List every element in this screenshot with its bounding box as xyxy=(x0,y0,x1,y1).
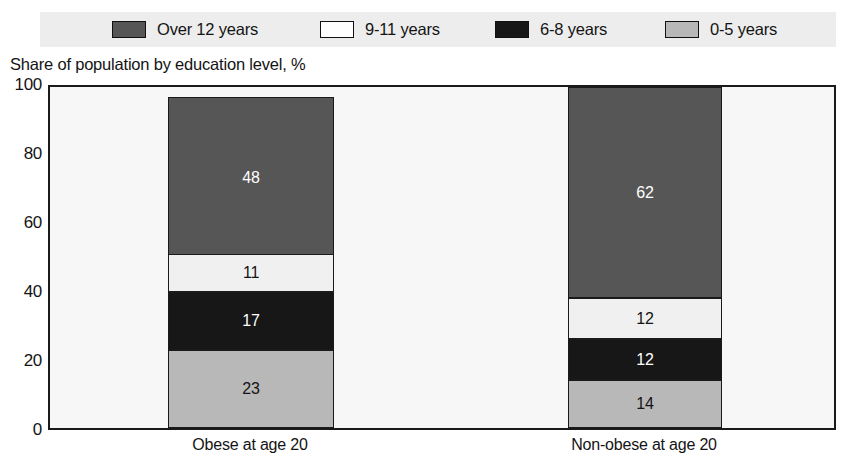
legend-swatch-0-5-years xyxy=(665,21,699,38)
y-tick-label-0: 0 xyxy=(2,420,42,440)
legend-swatch-6-8-years xyxy=(495,21,529,38)
y-axis: 100 80 60 40 20 0 xyxy=(0,85,42,430)
bar-segment-over-12-years[interactable]: 62 xyxy=(568,87,722,298)
plot-inner: 48 11 17 23 62 12 12 14 xyxy=(50,87,834,428)
bar-segment-value: 12 xyxy=(636,311,653,327)
bar-segment-value: 14 xyxy=(636,396,653,412)
legend-label-9-11-years: 9-11 years xyxy=(365,20,440,39)
legend-label-over-12-years: Over 12 years xyxy=(157,20,258,39)
legend-label-6-8-years: 6-8 years xyxy=(540,20,607,39)
legend-item-6-8-years[interactable]: 6-8 years xyxy=(495,12,607,47)
bar-segment-value: 23 xyxy=(242,381,259,397)
y-tick-label-60: 60 xyxy=(2,213,42,233)
bar-non-obese-at-age-20[interactable]: 62 12 12 14 xyxy=(568,87,722,428)
y-tick-label-80: 80 xyxy=(2,144,42,164)
bar-segment-9-11-years[interactable]: 11 xyxy=(168,254,334,292)
x-axis-label-obese-at-age-20: Obese at age 20 xyxy=(192,436,307,454)
chart-title: Share of population by education level, … xyxy=(10,55,305,74)
legend-swatch-over-12-years xyxy=(112,21,146,38)
legend-item-0-5-years[interactable]: 0-5 years xyxy=(665,12,777,47)
chart-legend: Over 12 years 9-11 years 6-8 years 0-5 y… xyxy=(40,12,836,47)
bar-obese-at-age-20[interactable]: 48 11 17 23 xyxy=(168,87,334,428)
bar-segment-value: 11 xyxy=(243,265,259,281)
y-tick-label-20: 20 xyxy=(2,351,42,371)
bar-segment-0-5-years[interactable]: 14 xyxy=(568,380,722,428)
legend-item-over-12-years[interactable]: Over 12 years xyxy=(112,12,258,47)
y-tick-label-40: 40 xyxy=(2,282,42,302)
bar-segment-value: 17 xyxy=(242,313,259,329)
bar-segment-6-8-years[interactable]: 17 xyxy=(168,292,334,350)
legend-item-9-11-years[interactable]: 9-11 years xyxy=(320,12,440,47)
bar-segment-over-12-years[interactable]: 48 xyxy=(168,97,334,261)
x-axis-label-non-obese-at-age-20: Non-obese at age 20 xyxy=(571,436,717,454)
legend-swatch-9-11-years xyxy=(320,21,354,38)
bar-segment-value: 62 xyxy=(636,185,653,201)
bar-segment-0-5-years[interactable]: 23 xyxy=(168,350,334,428)
legend-label-0-5-years: 0-5 years xyxy=(710,20,777,39)
y-tick-label-100: 100 xyxy=(2,75,42,95)
bar-segment-value: 12 xyxy=(636,352,653,368)
bar-segment-9-11-years[interactable]: 12 xyxy=(568,298,722,339)
plot-area: 48 11 17 23 62 12 12 14 xyxy=(48,85,836,430)
bar-segment-6-8-years[interactable]: 12 xyxy=(568,339,722,380)
bar-segment-value: 48 xyxy=(242,170,259,186)
